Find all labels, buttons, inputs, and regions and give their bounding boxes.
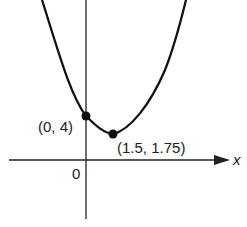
label-point-vertex: (1.5, 1.75) — [117, 140, 185, 155]
label-origin: 0 — [72, 166, 80, 181]
point-vertex — [109, 130, 118, 139]
point-y-intercept — [82, 112, 91, 121]
parabola-curve — [42, 0, 186, 134]
label-point-y-intercept: (0, 4) — [38, 119, 73, 134]
label-x-axis: x — [233, 152, 241, 167]
x-axis-arrow-icon — [214, 155, 230, 165]
graph — [0, 0, 247, 227]
